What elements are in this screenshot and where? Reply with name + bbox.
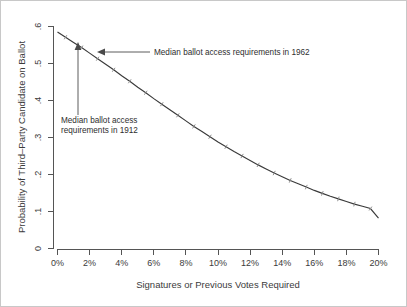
x-axis-ticks	[58, 250, 379, 255]
x-tick-label: 4%	[115, 258, 128, 268]
annotation-1912-label-line1: Median ballot access	[61, 116, 137, 125]
x-axis-tick-labels: 0% 2% 4% 6% 8% 10% 12% 14% 16% 18% 20%	[51, 258, 388, 268]
y-tick-label: .4	[33, 97, 43, 105]
y-axis-tick-labels: .6 .5 .4 .3 .2 .1 0	[33, 23, 43, 251]
x-tick-label: 6%	[147, 258, 160, 268]
x-tick-label: 10%	[209, 258, 227, 268]
y-tick-label: .6	[33, 23, 43, 31]
x-axis-title: Signatures or Previous Votes Required	[136, 279, 300, 290]
x-tick-label: 14%	[273, 258, 291, 268]
series-point-marker	[338, 197, 339, 202]
annotation-1962-arrow-head	[97, 49, 105, 56]
chart-plot-area: .6 .5 .4 .3 .2 .1 0 0% 2% 4% 6%	[1, 1, 407, 307]
x-tick-label: 18%	[337, 258, 355, 268]
y-axis-ticks	[48, 27, 54, 249]
x-tick-label: 12%	[241, 258, 259, 268]
y-tick-label: .2	[33, 171, 43, 179]
annotation-1962-label: Median ballot access requirements in 196…	[154, 48, 310, 57]
annotation-1962: Median ballot access requirements in 196…	[97, 48, 310, 57]
y-tick-label: .5	[33, 60, 43, 68]
annotation-1912: Median ballot access requirements in 191…	[61, 42, 138, 135]
x-tick-label: 2%	[83, 258, 96, 268]
y-tick-label: .1	[33, 208, 43, 216]
x-tick-label: 0%	[51, 258, 64, 268]
x-tick-label: 16%	[305, 258, 323, 268]
series-point-marker	[354, 202, 355, 207]
y-tick-label: 0	[33, 246, 43, 251]
annotation-1912-label-line2: requirements in 1912	[61, 126, 138, 135]
chart-figure: .6 .5 .4 .3 .2 .1 0 0% 2% 4% 6%	[0, 0, 407, 307]
x-tick-label: 20%	[369, 258, 387, 268]
y-axis-title: Probability of Third–Party Candidate on …	[16, 41, 27, 233]
y-tick-label: .3	[33, 134, 43, 142]
x-tick-label: 8%	[179, 258, 192, 268]
